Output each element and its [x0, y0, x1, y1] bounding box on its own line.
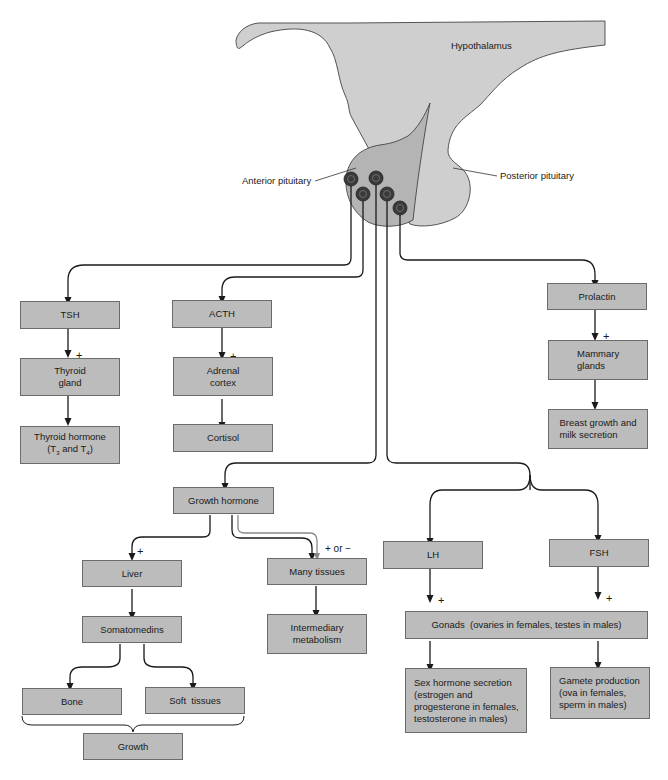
growth-text: Growth: [118, 741, 149, 753]
breast-growth-line1: Breast growth and: [559, 417, 636, 428]
mammary-glands-line2: glands: [577, 360, 605, 371]
many-tissues-text: Many tissues: [289, 566, 344, 578]
prolactin-text: Prolactin: [579, 291, 616, 303]
somatomedins-text: Somatomedins: [100, 624, 163, 636]
hypothalamus-label: Hypothalamus: [451, 40, 512, 51]
liver-box: Liver: [82, 560, 182, 587]
breast-growth-line2: milk secretion: [559, 429, 617, 440]
gonads-box: Gonads (ovaries in females, testes in ma…: [405, 611, 648, 639]
posterior-pituitary-label: Posterior pituitary: [500, 170, 574, 181]
sex-hormone-box: Sex hormone secretion(estrogen andproges…: [405, 668, 527, 733]
thyroid-gland-line2: gland: [58, 377, 81, 388]
gamete-production-box: Gamete production(ova in females,sperm i…: [550, 667, 650, 719]
somatomedins-box: Somatomedins: [82, 616, 182, 643]
plus-sign: +: [137, 545, 143, 557]
anterior-pituitary-label: Anterior pituitary: [242, 175, 311, 186]
adrenal-cortex-box: Adrenalcortex: [173, 357, 273, 396]
adrenal-cortex-line2: cortex: [210, 377, 236, 388]
fsh-box: FSH: [549, 539, 649, 567]
tsh-text: TSH: [61, 309, 80, 321]
cortisol-box: Cortisol: [173, 424, 273, 452]
bone-box: Bone: [22, 688, 122, 715]
mammary-glands-line1: Mammary: [577, 348, 619, 359]
gamete-line1: Gamete production: [559, 675, 640, 686]
lh-box: LH: [383, 541, 483, 569]
intermediary-metabolism-line1: Intermediary: [291, 622, 344, 633]
sex-hormone-line4: testosterone in males): [414, 713, 507, 724]
soft-tissues-box: Soft tissues: [145, 687, 245, 714]
plus-or-minus-sign: + or −: [325, 543, 351, 554]
thyroid-hormone-line2: (T3 and T4): [47, 443, 93, 454]
prolactin-box: Prolactin: [547, 283, 647, 310]
soft-tissues-text: Soft tissues: [169, 695, 221, 707]
gamete-line3: sperm in males): [559, 699, 627, 710]
thyroid-gland-box: Thyroidgland: [20, 358, 120, 396]
gonads-text: Gonads (ovaries in females, testes in ma…: [431, 619, 621, 631]
sex-hormone-line1: Sex hormone secretion: [414, 677, 512, 688]
growth-box: Growth: [83, 733, 183, 760]
thyroid-hormone-box: Thyroid hormone(T3 and T4): [20, 426, 120, 464]
acth-box: ACTH: [172, 300, 272, 328]
breast-growth-box: Breast growth andmilk secretion: [548, 409, 648, 449]
sex-hormone-line2: (estrogen and: [414, 689, 473, 700]
acth-text: ACTH: [209, 308, 235, 320]
thyroid-hormone-line1: Thyroid hormone: [34, 431, 106, 442]
lh-text: LH: [427, 549, 439, 561]
gamete-line2: (ova in females,: [559, 687, 626, 698]
bone-text: Bone: [61, 696, 83, 708]
adrenal-cortex-line1: Adrenal: [207, 365, 240, 376]
many-tissues-box: Many tissues: [267, 558, 367, 585]
pituitary-hormone-diagram: Hypothalamus Anterior pituitary Posterio…: [0, 0, 668, 780]
tsh-box: TSH: [20, 301, 120, 329]
fsh-text: FSH: [590, 547, 609, 559]
mammary-glands-box: Mammaryglands: [548, 340, 648, 380]
intermediary-metabolism-box: Intermediarymetabolism: [267, 614, 367, 654]
liver-text: Liver: [122, 568, 143, 580]
growth-hormone-box: Growth hormone: [173, 487, 274, 514]
growth-hormone-text: Growth hormone: [188, 495, 259, 507]
sex-hormone-line3: progesterone in females,: [414, 701, 519, 712]
thyroid-gland-line1: Thyroid: [54, 365, 86, 376]
cortisol-text: Cortisol: [207, 432, 239, 444]
plus-sign: +: [606, 592, 612, 604]
intermediary-metabolism-line2: metabolism: [293, 634, 342, 645]
plus-sign: +: [438, 594, 444, 606]
